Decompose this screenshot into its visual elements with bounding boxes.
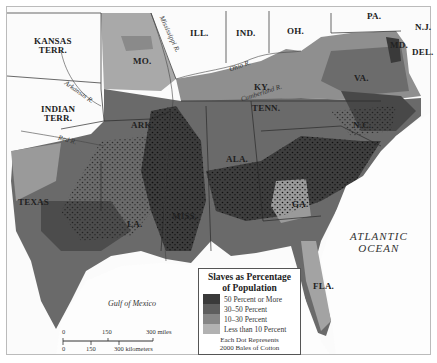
state-label-ala: ALA. xyxy=(226,155,248,164)
legend-swatch xyxy=(203,304,220,314)
legend-label: 10–30 Percent xyxy=(224,315,267,324)
gulf-label: Gulf of Mexico xyxy=(108,299,156,308)
scale-km-300: 300 kilometers xyxy=(114,345,153,352)
state-label-pa: PA. xyxy=(367,12,381,21)
state-label-la: LA. xyxy=(127,220,142,229)
state-label-fla: FLA. xyxy=(313,282,334,291)
state-label-ga: GA. xyxy=(292,200,308,209)
state-label-indian-terr: INDIANTERR. xyxy=(41,105,75,123)
state-label-ind: IND. xyxy=(236,29,256,38)
legend-note-line1: Each Dot Represents xyxy=(203,336,296,344)
legend-label: 50 Percent or More xyxy=(224,295,282,304)
legend-item: 50 Percent or More xyxy=(203,294,296,304)
slavery-cotton-map: KANSASTERR. INDIANTERR. MO. ILL. IND. OH… xyxy=(0,0,437,363)
legend-title-line1: Slaves as Percentage xyxy=(203,272,296,283)
state-label-nj: N.J. xyxy=(415,23,431,32)
scale-miles-0: 0 xyxy=(62,328,65,335)
scale-miles-150: 150 xyxy=(102,328,112,335)
legend-title-line2: of Population xyxy=(203,283,296,294)
ocean-label: ATLANTIC OCEAN xyxy=(350,230,408,254)
legend-note: Each Dot Represents 2000 Bales of Cotton xyxy=(203,336,296,352)
ocean-label-line1: ATLANTIC xyxy=(350,230,408,242)
state-label-texas: TEXAS xyxy=(18,198,49,207)
scale-km-150: 150 xyxy=(86,345,96,352)
scale-bar: 0 150 300 miles 0 150 300 kilometers xyxy=(58,328,208,353)
legend-swatch xyxy=(203,294,220,304)
state-label-tenn: TENN. xyxy=(252,104,280,113)
state-label-oh: OH. xyxy=(287,27,304,36)
legend-item: 30–50 Percent xyxy=(203,304,296,314)
legend-label: Less than 10 Percent xyxy=(224,325,286,334)
state-label-nc: N.C. xyxy=(353,121,371,130)
legend-item: Less than 10 Percent xyxy=(203,324,296,334)
state-label-md: MD. xyxy=(390,41,408,50)
state-label-mo: MO. xyxy=(133,57,151,66)
state-label-va: VA. xyxy=(354,74,369,83)
scale-km-0: 0 xyxy=(62,345,65,352)
map-legend: Slaves as Percentage of Population 50 Pe… xyxy=(198,268,301,355)
state-label-kansas-terr: KANSASTERR. xyxy=(34,37,72,55)
state-label-del: DEL. xyxy=(412,48,434,57)
state-label-ill: ILL. xyxy=(190,29,209,38)
ocean-label-line2: OCEAN xyxy=(350,242,408,254)
legend-label: 30–50 Percent xyxy=(224,305,267,314)
state-label-miss: MISS. xyxy=(172,212,197,221)
legend-swatch xyxy=(203,314,220,324)
state-label-ark: ARK. xyxy=(131,121,154,130)
legend-note-line2: 2000 Bales of Cotton xyxy=(203,344,296,352)
legend-item: 10–30 Percent xyxy=(203,314,296,324)
scale-miles-300: 300 miles xyxy=(146,328,171,335)
